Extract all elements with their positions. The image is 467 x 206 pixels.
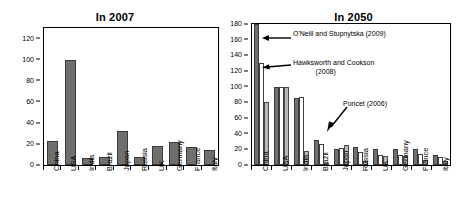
y-tick: 180 (230, 20, 248, 27)
bar-group (331, 24, 351, 165)
x-axis-label: Japan (122, 151, 131, 171)
y-tick-label: 80 (26, 76, 34, 83)
x-axis-label: UK (381, 161, 390, 171)
y-tick-label: 20 (26, 139, 34, 146)
bar-series-2007 (44, 28, 218, 165)
annotation-arrow-oneill (262, 34, 292, 42)
y-tick-mark (36, 164, 40, 165)
x-axis-label: China (52, 151, 61, 171)
annotation-oneill-text: O'Neill and Stupnytska (2009) (293, 30, 386, 37)
x-label-cell: USA (61, 171, 79, 206)
x-axis-label: Japan (341, 151, 350, 171)
x-axis-label: Germany (401, 140, 410, 171)
chart-title-2007: In 2007 (0, 11, 230, 23)
x-axis-label: UK (157, 161, 166, 171)
y-tick-label: 100 (230, 82, 242, 89)
x-label-cell: Italy (431, 171, 451, 206)
bar-group (371, 24, 391, 165)
x-axis-label: Russia (140, 148, 149, 171)
x-label-cell: USA (271, 171, 291, 206)
x-axis-label: Brazil (321, 152, 330, 171)
y-tick-mark (36, 38, 40, 39)
x-label-cell: France (411, 171, 431, 206)
x-axis-label: Brazil (105, 152, 114, 171)
y-tick-mark (244, 117, 248, 118)
x-label-cell: Italy (201, 171, 219, 206)
x-axis-label: USA (281, 156, 290, 171)
bar-group (148, 28, 165, 165)
annotation-poncet-text: Poncet (2006) (343, 100, 387, 107)
annotation-hawksworth-line1: Hawksworth and Cookson (293, 59, 374, 66)
y-tick-label: 140 (230, 51, 242, 58)
y-tick-mark (36, 80, 40, 81)
y-tick-mark (36, 101, 40, 102)
bar-group (96, 28, 113, 165)
y-tick-mark (244, 148, 248, 149)
bar-group (44, 28, 61, 165)
y-tick-label: 160 (230, 35, 242, 42)
x-label-cell: Russia (351, 171, 371, 206)
y-tick-label: 80 (234, 98, 242, 105)
y-tick: 80 (234, 98, 248, 105)
annotation-poncet: Poncet (2006) (343, 99, 387, 108)
x-axis-label: India (301, 155, 310, 171)
x-label-cell: Germany (391, 171, 411, 206)
x-label-cell: UK (149, 171, 167, 206)
x-label-cell: Brazil (311, 171, 331, 206)
annotation-hawksworth-line2: (2008) (293, 67, 374, 76)
bar-group (131, 28, 148, 165)
bar (284, 87, 289, 165)
x-label-cell: France (184, 171, 202, 206)
bar-group (252, 24, 272, 165)
y-tick: 140 (230, 51, 248, 58)
y-tick-mark (36, 122, 40, 123)
x-label-cell: China (43, 171, 61, 206)
y-tick-mark (244, 164, 248, 165)
bar-group (114, 28, 131, 165)
y-tick: 20 (234, 145, 248, 152)
y-tick-mark (244, 86, 248, 87)
bar-group (79, 28, 96, 165)
chart-panel-2050: In 2050 020406080100120140160180 ChinaUS… (230, 0, 467, 206)
chart-panel-2007: In 2007 020406080100120 ChinaUSAIndiaBra… (0, 0, 230, 206)
y-tick-label: 0 (238, 161, 242, 168)
x-label-cell: India (291, 171, 311, 206)
x-axis-label: India (87, 155, 96, 171)
y-tick: 120 (230, 67, 248, 74)
y-tick-label: 60 (26, 97, 34, 104)
x-axis-labels-2007: ChinaUSAIndiaBrazilJapanRussiaUKGermanyF… (43, 171, 219, 206)
y-tick: 40 (234, 129, 248, 136)
x-axis-label: Italy (441, 157, 450, 171)
y-tick-mark (244, 133, 248, 134)
y-tick-mark (244, 54, 248, 55)
x-axis-label: France (193, 148, 202, 171)
bar-group (183, 28, 200, 165)
bar-group (311, 24, 331, 165)
y-tick: 100 (230, 82, 248, 89)
bar-group (201, 28, 218, 165)
x-label-cell: UK (371, 171, 391, 206)
annotation-hawksworth: Hawksworth and Cookson (2008) (293, 58, 374, 76)
annotation-arrow-poncet (326, 106, 348, 132)
y-axis-2007: 020406080100120 (0, 27, 40, 166)
x-label-cell: Japan (331, 171, 351, 206)
x-label-cell: Japan (113, 171, 131, 206)
y-tick: 120 (22, 34, 40, 41)
figure-two-panel-bar-charts: In 2007 020406080100120 ChinaUSAIndiaBra… (0, 0, 467, 206)
y-tick: 0 (30, 161, 40, 168)
y-tick-mark (244, 23, 248, 24)
y-tick-mark (244, 39, 248, 40)
x-axis-labels-2050: ChinaUSAIndiaBrazilJapanRussiaUKGermanyF… (251, 171, 451, 206)
y-tick-label: 40 (26, 118, 34, 125)
y-tick: 60 (234, 114, 248, 121)
x-label-cell: Germany (166, 171, 184, 206)
bar-group (61, 28, 78, 165)
y-axis-2050: 020406080100120140160180 (226, 23, 248, 166)
x-axis-label: China (261, 151, 270, 171)
x-axis-label: Russia (361, 148, 370, 171)
y-tick-mark (36, 143, 40, 144)
bar-group (410, 24, 430, 165)
bar-group (351, 24, 371, 165)
y-tick-label: 120 (230, 67, 242, 74)
x-axis-label: France (421, 148, 430, 171)
